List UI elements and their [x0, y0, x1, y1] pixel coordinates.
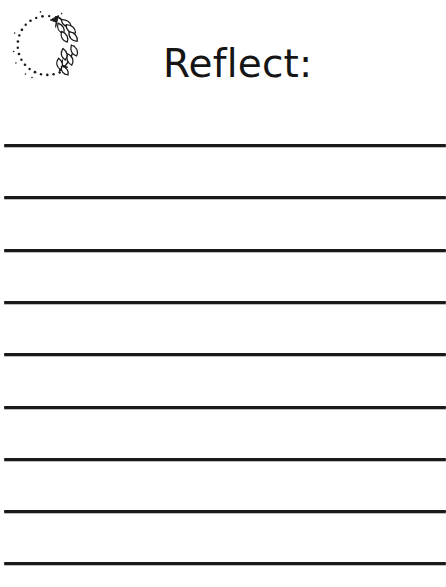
writing-line[interactable]: [4, 196, 446, 199]
journal-page: Reflect:: [0, 0, 446, 587]
writing-line[interactable]: [4, 353, 446, 356]
writing-line[interactable]: [4, 510, 446, 513]
writing-lines-area: [0, 0, 446, 587]
writing-line[interactable]: [4, 458, 446, 461]
writing-line[interactable]: [4, 562, 446, 565]
writing-line[interactable]: [4, 406, 446, 409]
writing-line[interactable]: [4, 301, 446, 304]
writing-line[interactable]: [4, 144, 446, 147]
writing-line[interactable]: [4, 249, 446, 252]
